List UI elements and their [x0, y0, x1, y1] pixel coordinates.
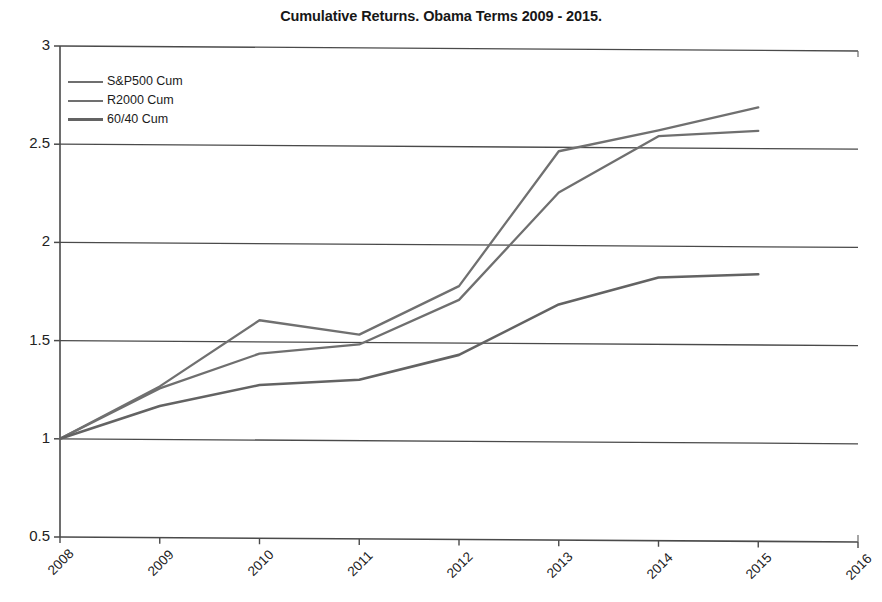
legend-item-sp500: S&P500 Cum — [68, 72, 183, 91]
y-tick-label: 1.5 — [10, 331, 50, 348]
legend-swatch-icon — [68, 81, 103, 83]
series-line — [60, 107, 758, 438]
series-line — [60, 131, 758, 439]
data-series-group — [60, 107, 758, 438]
legend-item-6040: 60/40 Cum — [68, 110, 183, 129]
y-tick-label: 0.5 — [10, 527, 50, 544]
legend-label: 60/40 Cum — [107, 113, 168, 126]
chart-legend: S&P500 Cum R2000 Cum 60/40 Cum — [68, 72, 183, 129]
chart-container: Cumulative Returns. Obama Terms 2009 - 2… — [0, 0, 882, 602]
y-tick-label: 2 — [10, 232, 50, 249]
series-line — [60, 274, 758, 439]
legend-item-r2000: R2000 Cum — [68, 91, 183, 110]
legend-swatch-icon — [68, 118, 103, 121]
y-tick-label: 2.5 — [10, 134, 50, 151]
legend-label: R2000 Cum — [107, 94, 174, 107]
y-tick-label: 3 — [10, 36, 50, 53]
legend-label: S&P500 Cum — [107, 75, 183, 88]
legend-swatch-icon — [68, 100, 103, 102]
y-tick-label: 1 — [10, 429, 50, 446]
